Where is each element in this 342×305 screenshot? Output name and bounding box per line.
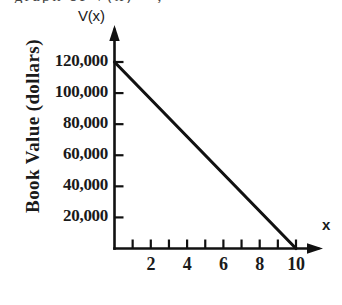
x-tick-label: 8 [240,254,280,275]
x-tick-label: 6 [203,254,243,275]
x-tick-label: 10 [276,254,316,275]
book-value-chart-figure: graph of V(x) = , Book Value (dollars) V… [0,0,342,305]
x-tick-label: 4 [167,254,207,275]
x-tick-label: 2 [131,254,171,275]
x-tick-label-group: 246810 [0,0,342,305]
